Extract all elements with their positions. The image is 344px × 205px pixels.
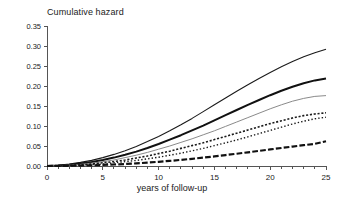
y-tick-label: 0.10 (26, 122, 41, 131)
x-tick-label: 25 (322, 173, 331, 182)
y-tick-label: 0.30 (26, 42, 41, 51)
x-tick-label: 15 (210, 173, 219, 182)
curve-4 (47, 113, 326, 166)
x-tick-label: 0 (45, 173, 50, 182)
x-tick-label: 10 (154, 173, 163, 182)
y-tick-label: 0.25 (26, 62, 41, 71)
y-tick-label: 0.00 (26, 162, 41, 171)
cumulative-hazard-chart: Cumulative hazard 0.000.050.100.150.200.… (0, 0, 344, 205)
x-axis: 0510152025 (45, 166, 331, 182)
x-tick-label: 20 (266, 173, 275, 182)
y-tick-label: 0.20 (26, 82, 41, 91)
y-tick-label: 0.35 (26, 22, 41, 31)
x-axis-label: years of follow-up (0, 183, 344, 193)
x-tick-label: 5 (101, 173, 106, 182)
y-axis: 0.000.050.100.150.200.250.300.35 (26, 22, 47, 171)
curve-3 (47, 96, 326, 166)
y-tick-label: 0.15 (26, 102, 41, 111)
data-curves (47, 49, 326, 166)
plot-area: 0.000.050.100.150.200.250.300.35 0510152… (0, 0, 344, 205)
y-tick-label: 0.05 (26, 142, 41, 151)
